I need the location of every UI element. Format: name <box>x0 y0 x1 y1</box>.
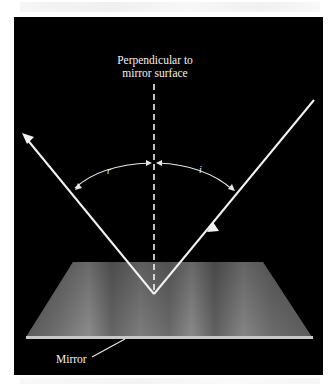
reflected-angle-label: r <box>107 165 111 176</box>
normal-label-line2: mirror surface <box>122 67 187 79</box>
mirror <box>26 262 313 339</box>
normal-label-line1: Perpendicular to <box>117 54 193 67</box>
mirror-front-edge <box>26 336 313 339</box>
incident-angle-label: i <box>199 164 202 175</box>
reflection-diagram: r i Perpendicular to mirror surface Mirr… <box>0 0 333 385</box>
mirror-label: Mirror <box>56 353 87 365</box>
